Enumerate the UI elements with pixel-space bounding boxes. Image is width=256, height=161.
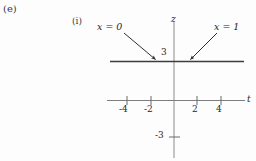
figure-panel: (e) (i) x = 0 x = 1 z t 3 -3 -4 -2 2 4 [0,0,256,161]
arrow-x-equals-0 [124,33,156,60]
plot-canvas [0,0,256,161]
arrow-x-equals-1 [191,33,218,60]
